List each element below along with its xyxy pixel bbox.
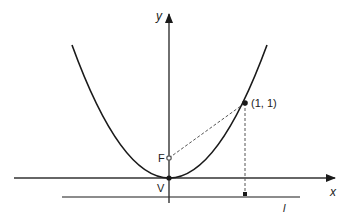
point-1-1 xyxy=(242,100,248,106)
focus-point xyxy=(167,156,171,160)
directrix-label: l xyxy=(283,202,286,214)
point-label: (1, 1) xyxy=(251,97,277,109)
vertex-point xyxy=(166,175,171,180)
x-axis-label: x xyxy=(329,185,337,199)
focus-to-point-dashed-line xyxy=(169,103,245,158)
y-axis-label: y xyxy=(155,9,163,23)
parabola-diagram: y x F V (1, 1) l xyxy=(0,0,343,220)
vertex-label: V xyxy=(157,182,165,194)
focus-label: F xyxy=(158,152,165,164)
right-angle-marker xyxy=(243,192,247,196)
